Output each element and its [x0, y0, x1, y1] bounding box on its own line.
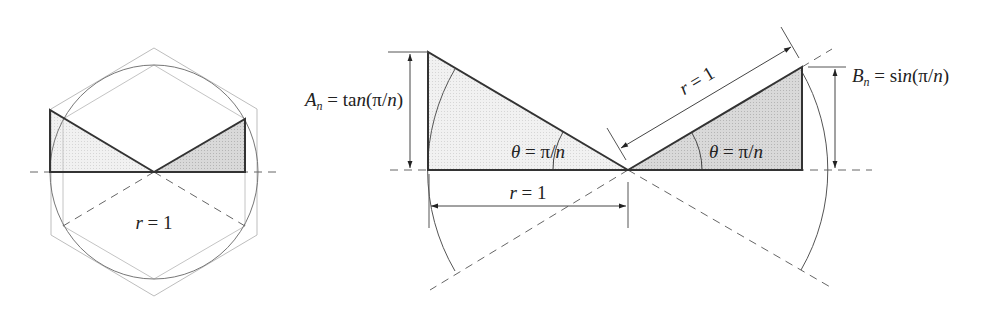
tangent-label: An = tan(π/n): [303, 89, 403, 113]
angle-label-right: θ = π/n: [709, 141, 763, 162]
diagram-canvas: r = 1 An = tan(π/n) Bn = sin(π/n): [0, 0, 987, 311]
right-panel: An = tan(π/n) Bn = sin(π/n) r = 1 r = 1 …: [303, 27, 949, 290]
dashed-diagonal-lower-right: [628, 170, 832, 288]
radius-extension-diagonal-end: [781, 27, 799, 58]
left-panel: r = 1: [30, 48, 280, 296]
radius-label-horizontal: r = 1: [509, 182, 546, 203]
radius-label-left: r = 1: [135, 212, 172, 233]
radius-label-diagonal: r = 1: [675, 62, 718, 99]
angle-label-left: θ = π/n: [511, 141, 565, 162]
sine-label: Bn = sin(π/n): [852, 65, 949, 89]
dashed-extension-upper-right: [802, 49, 832, 67]
radius-extension-diagonal-start: [607, 128, 626, 160]
